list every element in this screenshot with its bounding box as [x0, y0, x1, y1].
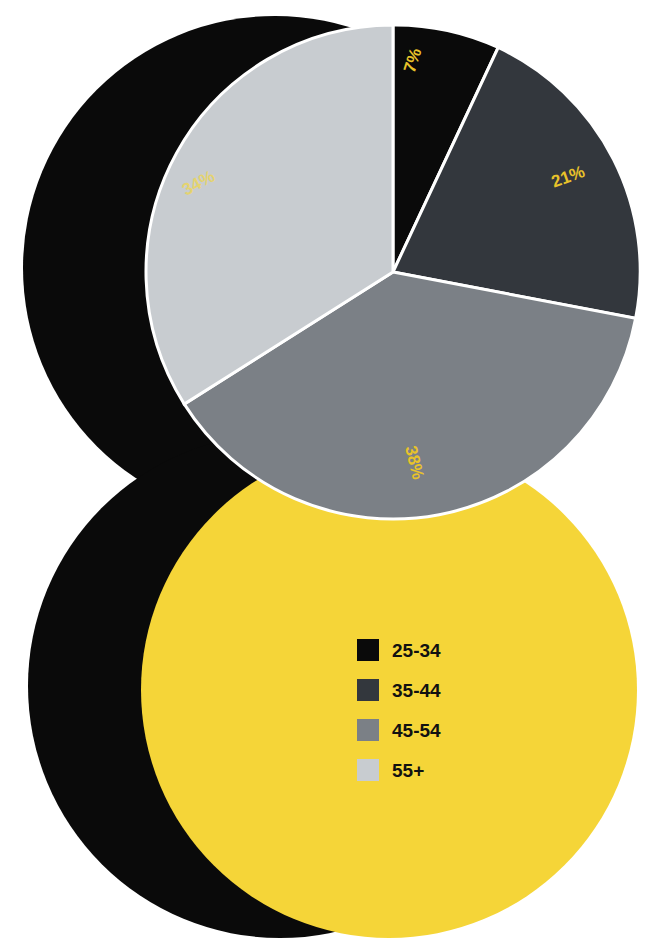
pie-chart-figure: 7% 21% 38% 34% 25-34 35-44 45-54 55+: [0, 0, 651, 946]
legend-label-35-44: 35-44: [392, 680, 441, 701]
pie-slices: [146, 25, 640, 519]
legend-item-45-54[interactable]: 45-54: [357, 719, 441, 741]
legend-swatch-25-34: [357, 639, 379, 661]
legend-item-35-44[interactable]: 35-44: [357, 679, 441, 701]
legend-swatch-45-54: [357, 719, 379, 741]
legend-label-55plus: 55+: [392, 760, 424, 781]
legend-swatch-55plus: [357, 759, 379, 781]
legend-swatch-35-44: [357, 679, 379, 701]
legend-label-25-34: 25-34: [392, 640, 441, 661]
chart-canvas: 7% 21% 38% 34% 25-34 35-44 45-54 55+: [0, 0, 651, 946]
legend-label-45-54: 45-54: [392, 720, 441, 741]
legend-item-25-34[interactable]: 25-34: [357, 639, 441, 661]
